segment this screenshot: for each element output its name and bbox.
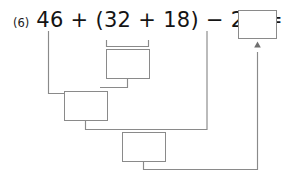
connector-first-term-to-step2: [49, 31, 101, 94]
arrowhead-icon: [254, 42, 261, 48]
step-2-box[interactable]: [64, 91, 108, 121]
connector-step1-to-step2: [100, 78, 128, 88]
bracket-parenthesis-group: [107, 40, 149, 47]
math-worksheet-problem: (6) 46 + (32 + 18) − 28 =: [0, 0, 282, 178]
answer-box[interactable]: [238, 10, 277, 39]
step-1-box[interactable]: [106, 49, 150, 79]
step-3-box[interactable]: [122, 132, 166, 162]
